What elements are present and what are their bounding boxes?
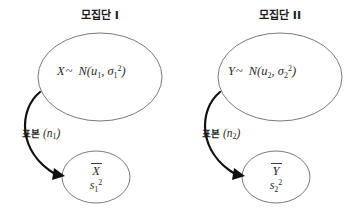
distribution-variance-sup-2: 2 <box>288 64 292 73</box>
distribution-name-1: N <box>78 64 86 78</box>
sampling-diagram: 모집단 I X~N(u1, σ12) 표본(n1) X s12 모집단 II Y… <box>0 0 362 223</box>
distribution-mean-sub-2: 2 <box>267 71 271 80</box>
population-title-2: 모집단 II <box>230 6 330 22</box>
sample-label-text-1: 표본 <box>22 128 40 139</box>
sample-mean-1: X <box>91 163 102 178</box>
sample-label-1: 표본(n1) <box>22 126 60 141</box>
sample-variance-2: s22 <box>256 179 296 194</box>
sample-variance-sup-1: 2 <box>98 178 102 187</box>
relation-symbol-2: ~ <box>235 64 244 78</box>
distribution-name-2: N <box>249 64 257 78</box>
population-distribution-1: X~N(u1, σ12) <box>57 64 126 80</box>
population-variable-1: X <box>57 64 65 78</box>
sample-statistics-1: X s12 <box>76 163 116 193</box>
distribution-variance-sup-1: 2 <box>118 64 122 73</box>
sample-mean-2: Y <box>271 163 282 178</box>
sample-label-text-2: 표본 <box>202 128 220 139</box>
distribution-mean-sub-1: 1 <box>97 71 101 80</box>
sample-label-2: 표본(n2) <box>202 126 240 141</box>
sample-statistics-2: Y s22 <box>256 163 296 193</box>
sample-variance-sup-2: 2 <box>278 178 282 187</box>
diagram-shapes <box>0 0 362 223</box>
sample-variance-1: s12 <box>76 179 116 194</box>
sample-size-2: (n2) <box>220 127 240 139</box>
population-distribution-2: Y~N(u2, σ22) <box>228 64 296 80</box>
sample-size-1: (n1) <box>40 127 60 139</box>
population-title-1: 모집단 I <box>50 6 150 22</box>
population-variable-2: Y <box>228 64 235 78</box>
relation-symbol-1: ~ <box>65 64 74 78</box>
